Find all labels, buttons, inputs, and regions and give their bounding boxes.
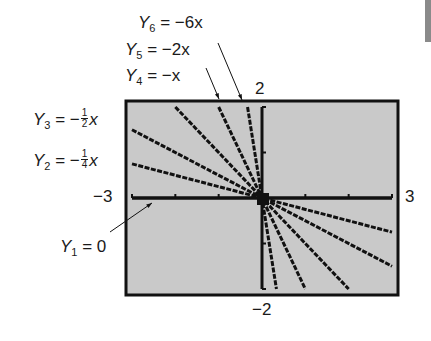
label-sub: 4 [136,75,142,87]
label-var: Y [33,110,44,129]
arrow-y6-head [238,94,242,100]
arrow-y6 [218,43,242,100]
fraction: 14 [81,149,89,170]
origin-marker [257,193,269,205]
label-y2: Y2 = −14x [33,151,98,172]
label-y3: Y3 = −12x [33,110,98,131]
label-var: Y [60,237,71,256]
label-var-x: x [89,151,98,170]
fraction-denominator: 2 [82,119,88,129]
page-edge-bar [425,0,431,42]
label-y1: Y1 = 0 [60,238,106,258]
fraction: 12 [81,108,89,129]
label-sub: 5 [136,49,142,61]
label-var: Y [125,40,136,59]
xmax-label: 3 [405,188,414,205]
label-sub: 3 [44,119,50,131]
label-rhs: = − [55,151,80,170]
label-rhs: = 0 [82,237,106,256]
label-rhs: = −2x [147,40,190,59]
ymin-label: −2 [252,301,271,318]
fraction-denominator: 4 [82,160,88,170]
xmin-label: −3 [93,188,112,205]
ymax-label: 2 [255,80,264,97]
label-rhs: = − [55,110,80,129]
label-var: Y [33,151,44,170]
label-y6: Y6 = −6x [138,14,203,34]
label-var-x: x [89,110,98,129]
label-sub: 6 [149,22,155,34]
label-y5: Y5 = −2x [125,41,190,61]
label-var: Y [125,66,136,85]
label-sub: 2 [44,160,50,172]
label-var: Y [138,13,149,32]
label-rhs: = −6x [160,13,203,32]
arrow-y5-head [215,93,219,99]
label-sub: 1 [71,246,77,258]
label-rhs: = −x [147,66,180,85]
label-y4: Y4 = −x [125,67,180,87]
